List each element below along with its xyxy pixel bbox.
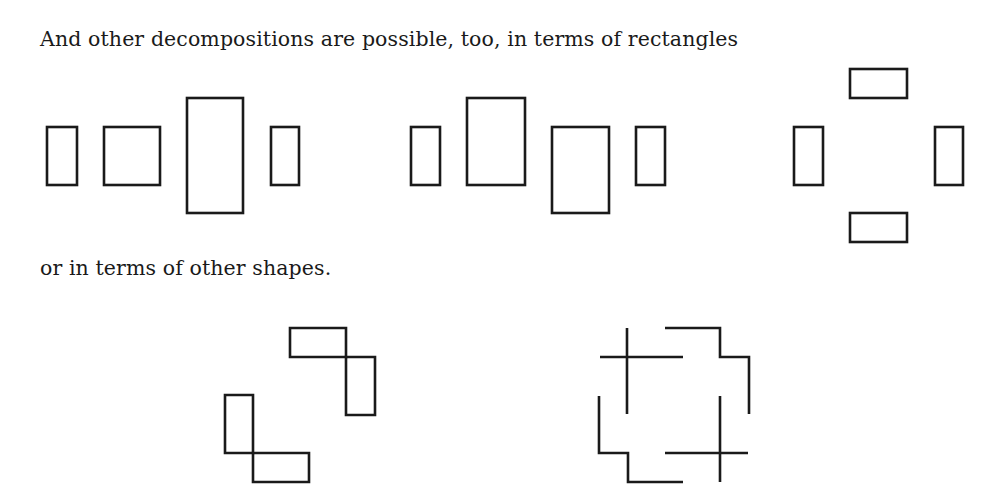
rectangle-shape <box>271 127 299 185</box>
piece-shape <box>665 396 748 482</box>
rectangle-shape <box>794 127 823 185</box>
piece-shape <box>600 328 683 414</box>
shape-decomposition-1 <box>225 328 375 482</box>
piece-shape <box>225 395 253 453</box>
rectangle-shape <box>552 127 609 213</box>
rectangle-shape <box>47 127 77 185</box>
rectangle-shape <box>187 98 243 213</box>
piece-shape <box>665 328 749 414</box>
rectangle-shape <box>411 127 440 185</box>
rect-decomposition-1 <box>47 98 299 213</box>
rectangle-shape <box>850 213 907 242</box>
rect-decomposition-3 <box>794 69 963 242</box>
rect-decomposition-2 <box>411 98 665 213</box>
piece-shape <box>346 357 375 415</box>
piece-shape <box>290 328 346 357</box>
decomposition-figures <box>0 0 992 503</box>
rectangle-shape <box>935 127 963 185</box>
rectangle-shape <box>104 127 160 185</box>
shape-decomposition-2 <box>599 328 749 482</box>
piece-shape <box>253 453 309 482</box>
rectangle-shape <box>467 98 525 185</box>
rectangle-shape <box>636 127 665 185</box>
piece-shape <box>599 396 683 482</box>
rectangle-shape <box>850 69 907 98</box>
